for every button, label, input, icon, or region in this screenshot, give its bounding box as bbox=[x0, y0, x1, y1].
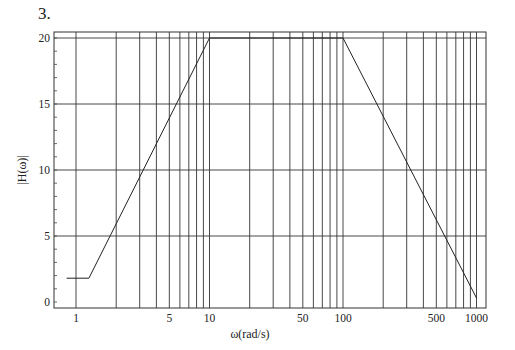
x-tick-label: 500 bbox=[428, 312, 446, 324]
x-tick-label: 50 bbox=[297, 312, 309, 324]
y-tick-label: 15 bbox=[39, 98, 51, 110]
magnitude-curve bbox=[67, 38, 477, 298]
x-axis-label: ω(rad/s) bbox=[230, 327, 269, 341]
bode-magnitude-chart: 1510501005001000 05101520 ω(rad/s) |H(ω)… bbox=[0, 0, 515, 350]
x-tick-label: 1000 bbox=[465, 312, 488, 324]
x-tick-label: 100 bbox=[334, 312, 352, 324]
y-tick-labels: 05101520 bbox=[39, 32, 51, 308]
y-tick-label: 10 bbox=[39, 164, 51, 176]
x-tick-label: 5 bbox=[166, 312, 172, 324]
y-tick-label: 20 bbox=[39, 32, 51, 44]
gridlines bbox=[54, 32, 486, 308]
x-tick-labels: 1510501005001000 bbox=[73, 312, 488, 324]
y-tick-label: 5 bbox=[44, 230, 50, 242]
y-tick-label: 0 bbox=[44, 296, 50, 308]
x-tick-label: 10 bbox=[204, 312, 216, 324]
axis-ticks bbox=[54, 38, 57, 302]
x-tick-label: 1 bbox=[73, 312, 79, 324]
y-axis-label: |H(ω)| bbox=[15, 155, 29, 184]
